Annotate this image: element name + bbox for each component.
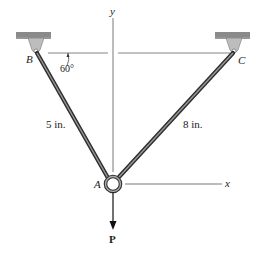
force-label: P	[109, 233, 116, 245]
angle-label: 60°	[60, 63, 74, 74]
ground-hatch-c	[215, 32, 250, 37]
y-axis-label: y	[109, 5, 115, 17]
support-b	[16, 32, 51, 53]
rod-ac	[119, 53, 233, 177]
x-axis-label: x	[224, 177, 230, 189]
ground-hatch-b	[16, 32, 51, 37]
point-c-label: C	[238, 54, 246, 66]
force-arrow-p	[110, 192, 117, 230]
length-ac-label: 8 in.	[183, 118, 203, 130]
truss-diagram: y x A B C 60° 5 in. 8 in. P	[0, 0, 268, 260]
length-ab-label: 5 in.	[46, 118, 66, 130]
ring-a	[106, 177, 121, 192]
point-a-label: A	[93, 178, 101, 190]
point-b-label: B	[26, 53, 33, 65]
support-c	[215, 32, 250, 53]
